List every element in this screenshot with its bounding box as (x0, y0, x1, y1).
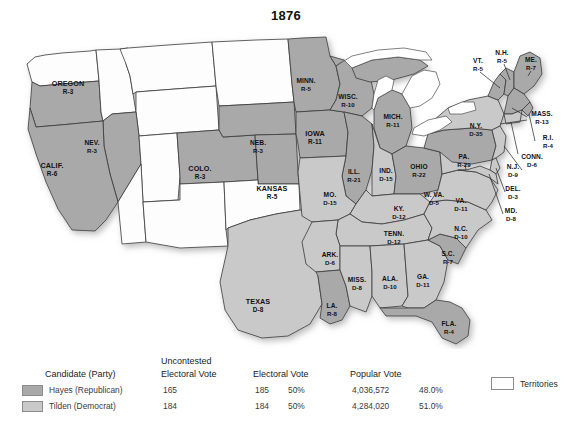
leader-conn (511, 122, 518, 154)
leader-ri (529, 114, 535, 141)
legend-uncontested-hayes: 165 (163, 385, 177, 395)
state-nebraska (219, 102, 296, 137)
state-colorado (177, 130, 258, 184)
electoral-map: OREGONR-3CALIF.R-6NEV.R-3COLO.R-3KANSASR… (0, 24, 572, 349)
legend-popular-pct-tilden: 51.0% (419, 401, 443, 411)
legend-header-popular: Popular Vote (350, 369, 402, 380)
state-georgia (402, 240, 448, 308)
state-minnesota (288, 37, 340, 112)
legend-popular-pct-hayes: 48.0% (419, 385, 443, 395)
state-iowa (296, 110, 348, 158)
legend-popular-hayes: 4,036,572 (352, 385, 389, 395)
state-alabama (370, 244, 408, 308)
state-utah (139, 133, 180, 202)
legend-label-territories: Territories (520, 379, 558, 389)
legend-swatch-tilden (22, 401, 43, 412)
state-vermont (488, 74, 506, 100)
state-kansas (255, 134, 299, 184)
legend-electoral-pct-tilden: 50% (288, 401, 305, 411)
state-oregon (30, 81, 103, 127)
legend-electoral-pct-hayes: 50% (288, 385, 305, 395)
state-ohio (392, 146, 442, 194)
legend-electoral-tilden: 184 (255, 401, 269, 411)
map-landmass (27, 37, 542, 344)
legend-candidate-hayes: Hayes (Republican) (49, 385, 123, 395)
us-map-svg (0, 24, 572, 349)
legend-popular-tilden: 4,284,020 (352, 401, 389, 411)
map-legend: Candidate (Party) Uncontested Electoral … (0, 352, 572, 423)
legend-swatch-hayes (22, 385, 43, 396)
leader-nj (504, 146, 522, 170)
state-illinois (342, 112, 374, 204)
legend-candidate-tilden: Tilden (Democrat) (49, 401, 116, 411)
state-montana (120, 42, 216, 94)
legend-swatch-territories (491, 377, 514, 390)
legend-header-uncontested-line1: Uncontested (161, 356, 212, 367)
state-maine (514, 52, 542, 94)
legend-electoral-hayes: 185 (255, 385, 269, 395)
page-title: 1876 (0, 8, 572, 23)
state-dakota (212, 39, 294, 106)
legend-header-candidate: Candidate (Party) (45, 369, 116, 380)
state-wyoming (136, 86, 219, 136)
legend-header-uncontested-line2: Electoral Vote (161, 369, 217, 380)
legend-uncontested-tilden: 184 (163, 401, 177, 411)
legend-header-electoral: Electoral Vote (253, 369, 309, 380)
state-washington (27, 50, 99, 86)
